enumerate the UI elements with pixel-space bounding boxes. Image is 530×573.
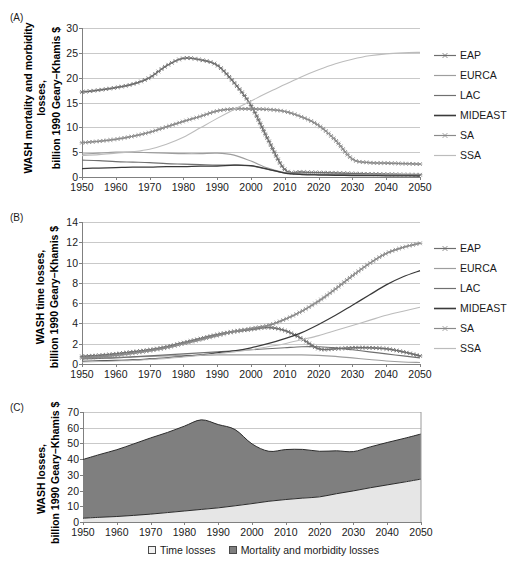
panel-c-y-axis-title-units: billion 1990 Geary–Khamis $ bbox=[49, 414, 62, 544]
x-axis-tick-label: 2030 bbox=[341, 182, 364, 193]
x-axis-tick-mark bbox=[218, 522, 219, 525]
x-axis-tick-label: 1950 bbox=[71, 527, 94, 538]
x-axis-tick-label: 1970 bbox=[138, 182, 161, 193]
x-axis-tick-mark bbox=[285, 364, 286, 367]
x-axis-tick-mark bbox=[420, 177, 421, 180]
legend-item-lac[interactable]: LAC bbox=[434, 278, 507, 298]
x-axis-tick-mark bbox=[319, 177, 320, 180]
x-axis-tick-label: 2020 bbox=[307, 369, 330, 380]
x-axis-tick-label: 1960 bbox=[105, 527, 128, 538]
legend-item-eurca[interactable]: EURCA bbox=[434, 65, 507, 85]
legend-item-mideast[interactable]: MIDEAST bbox=[434, 105, 507, 125]
x-axis-tick-label: 2010 bbox=[274, 527, 297, 538]
y-axis-tick-label: 30 bbox=[66, 23, 78, 34]
legend-item-eurca[interactable]: EURCA bbox=[434, 258, 507, 278]
legend-label-sa: SA bbox=[460, 323, 474, 334]
x-axis-tick-label: 2050 bbox=[408, 369, 431, 380]
legend-label-lac: LAC bbox=[460, 90, 480, 101]
x-axis-tick-mark bbox=[150, 364, 151, 367]
panel-c-tag: (C) bbox=[10, 402, 24, 413]
panel-b-plot-area: 0246810121419501960197019801990200020102… bbox=[82, 222, 420, 364]
legend-swatch-mideast bbox=[434, 110, 456, 121]
x-axis-tick-mark bbox=[117, 522, 118, 525]
legend-swatch-lac bbox=[434, 90, 456, 101]
legend-label-eurca: EURCA bbox=[460, 263, 497, 274]
y-axis-tick-label: 8 bbox=[72, 278, 78, 289]
legend-item-ssa[interactable]: SSA bbox=[434, 145, 507, 165]
y-axis-tick-label: 6 bbox=[72, 298, 78, 309]
legend-label-eap: EAP bbox=[460, 243, 481, 254]
legend-item-time-losses[interactable]: Time losses bbox=[148, 544, 216, 556]
y-axis-tick-label: 12 bbox=[66, 237, 78, 248]
x-axis-tick-mark bbox=[151, 522, 152, 525]
y-axis-tick-label: 15 bbox=[66, 97, 78, 108]
x-axis-tick-label: 1980 bbox=[172, 369, 195, 380]
x-axis-tick-mark bbox=[320, 522, 321, 525]
x-axis-tick-label: 2030 bbox=[341, 369, 364, 380]
x-axis-tick-label: 2040 bbox=[375, 182, 398, 193]
x-axis-tick-mark bbox=[387, 522, 388, 525]
panel-b: (B) WASH time losses, billion 1990 Geary… bbox=[0, 200, 530, 392]
legend-item-mideast[interactable]: MIDEAST bbox=[434, 298, 507, 318]
y-axis-tick-label: 60 bbox=[67, 422, 79, 433]
x-axis-tick-label: 2020 bbox=[308, 527, 331, 538]
legend-swatch-mideast bbox=[434, 303, 456, 314]
series-canvas bbox=[83, 412, 421, 522]
panel-b-y-axis-title-units: billion 1990 Geary–Khamis $ bbox=[48, 222, 61, 372]
x-axis-tick-mark bbox=[150, 177, 151, 180]
x-axis-tick-label: 2010 bbox=[273, 182, 296, 193]
x-axis-tick-label: 1960 bbox=[104, 369, 127, 380]
panel-c-plot-area: 0102030405060701950196019701980199020002… bbox=[83, 412, 421, 522]
legend-label-ssa: SSA bbox=[460, 343, 481, 354]
legend-swatch-sa bbox=[434, 130, 456, 141]
y-axis-tick-label: 20 bbox=[66, 72, 78, 83]
x-axis-tick-label: 2050 bbox=[408, 182, 431, 193]
x-axis-tick-mark bbox=[116, 177, 117, 180]
panel-c-legend: Time lossesMortality and morbidity losse… bbox=[148, 544, 379, 556]
legend-swatch bbox=[148, 546, 156, 554]
legend-label-eurca: EURCA bbox=[460, 70, 497, 81]
y-axis-tick-label: 70 bbox=[67, 407, 79, 418]
legend-item-sa[interactable]: SA bbox=[434, 125, 507, 145]
panel-a-y-axis-title: WASH mortality and morbidity losses, bbox=[22, 18, 47, 178]
legend-label-sa: SA bbox=[460, 130, 474, 141]
panel-a-plot-area: 0510152025301950196019701980199020002010… bbox=[82, 28, 420, 177]
series-line-sa bbox=[82, 243, 420, 358]
x-axis-tick-mark bbox=[251, 364, 252, 367]
legend-swatch-eurca bbox=[434, 70, 456, 81]
y-axis-tick-label: 20 bbox=[67, 485, 79, 496]
x-axis-tick-label: 1980 bbox=[172, 182, 195, 193]
legend-swatch bbox=[229, 546, 237, 554]
x-axis-tick-mark bbox=[285, 177, 286, 180]
x-axis-tick-label: 1990 bbox=[206, 369, 229, 380]
x-axis-tick-label: 2050 bbox=[409, 527, 432, 538]
legend-item-sa[interactable]: SA bbox=[434, 318, 507, 338]
x-axis-tick-label: 1970 bbox=[138, 369, 161, 380]
x-axis-tick-label: 1970 bbox=[139, 527, 162, 538]
legend-label-lac: LAC bbox=[460, 283, 480, 294]
x-axis-tick-label: 2020 bbox=[307, 182, 330, 193]
legend-item-ssa[interactable]: SSA bbox=[434, 338, 507, 358]
panel-c-y-axis-title: WASH losses, bbox=[35, 414, 48, 544]
panel-a-y-axis-title-units: billion 1990 Geary–Khamis $ bbox=[50, 18, 63, 178]
x-axis-tick-mark bbox=[83, 522, 84, 525]
x-axis-tick-label: 1950 bbox=[70, 182, 93, 193]
x-axis-tick-mark bbox=[116, 364, 117, 367]
x-axis-tick-mark bbox=[184, 522, 185, 525]
x-axis-tick-label: 2000 bbox=[239, 369, 262, 380]
legend-item-eap[interactable]: EAP bbox=[434, 238, 507, 258]
panel-c: (C) WASH losses, billion 1990 Geary–Kham… bbox=[0, 392, 530, 573]
x-axis-tick-label: 1950 bbox=[70, 369, 93, 380]
legend-item-eap[interactable]: EAP bbox=[434, 45, 507, 65]
legend-swatch-ssa bbox=[434, 343, 456, 354]
x-axis-tick-label: 2000 bbox=[240, 527, 263, 538]
x-axis-tick-mark bbox=[217, 364, 218, 367]
legend-swatch-lac bbox=[434, 283, 456, 294]
x-axis-tick-mark bbox=[82, 364, 83, 367]
x-axis-tick-mark bbox=[82, 177, 83, 180]
legend-item-mortality-morbidity-losses[interactable]: Mortality and morbidity losses bbox=[229, 544, 379, 556]
x-axis-tick-mark bbox=[183, 177, 184, 180]
x-axis-tick-label: 2000 bbox=[239, 182, 262, 193]
legend-swatch-eap bbox=[434, 50, 456, 61]
legend-item-lac[interactable]: LAC bbox=[434, 85, 507, 105]
